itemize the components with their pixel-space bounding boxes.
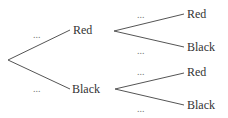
node-black-red: Red bbox=[187, 66, 206, 78]
node-black: Black bbox=[72, 83, 100, 95]
prob-black: ... bbox=[33, 84, 41, 94]
node-red-black: Black bbox=[187, 41, 215, 53]
node-black-black: Black bbox=[187, 99, 215, 111]
prob-red-black: ... bbox=[137, 46, 145, 56]
branch-black-black bbox=[115, 89, 184, 105]
branch-black-red bbox=[115, 73, 184, 89]
prob-black-black: ... bbox=[137, 104, 145, 114]
prob-red: ... bbox=[33, 30, 41, 40]
prob-red-red: ... bbox=[137, 10, 145, 20]
node-red: Red bbox=[73, 24, 92, 36]
branch-red-black bbox=[114, 31, 184, 47]
branch-red-red bbox=[114, 14, 184, 31]
prob-black-red: ... bbox=[137, 67, 145, 77]
node-red-red: Red bbox=[187, 8, 206, 20]
